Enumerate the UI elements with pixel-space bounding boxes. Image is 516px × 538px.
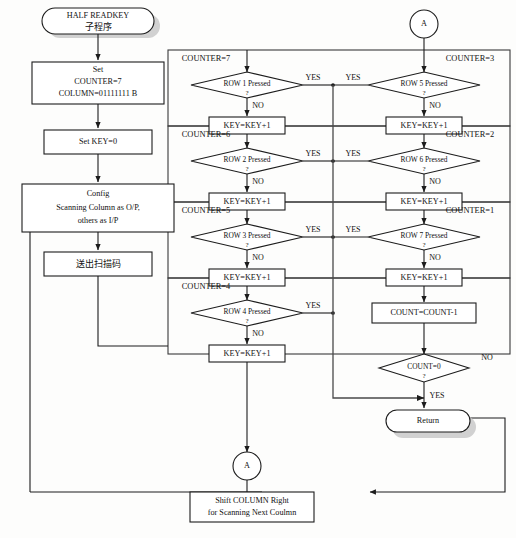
send-scan-code-box: 送出扫描码 [44, 252, 152, 276]
count-decrement-label: COUNT=COUNT-1 [390, 308, 457, 317]
no-label-count-zero: NO [481, 353, 493, 362]
counter-label-3: COUNTER=3 [446, 54, 494, 63]
decision-count-zero-label: COUNT=0 [407, 362, 441, 371]
yes-label-row5: YES [345, 73, 360, 82]
no-label-row4: NO [252, 329, 264, 338]
config-line2: Scanning Column as O/P, [56, 203, 140, 212]
config-box: Config Scanning Column as O/P, others as… [22, 184, 174, 232]
counter-label-2: COUNTER=2 [446, 130, 494, 139]
key-increment-label-1: KEY=KEY+1 [224, 121, 271, 130]
decision-row5-q: ? [422, 89, 425, 97]
decision-count-zero-q: ? [422, 372, 425, 380]
no-label-row2: NO [252, 177, 264, 186]
yes-label-row2: YES [305, 149, 320, 158]
connector-top-a: A [410, 10, 438, 38]
yes-label-row6: YES [345, 149, 360, 158]
start-terminator: HALF READKEY 子程序 [42, 8, 160, 38]
connector-bottom-a: A [233, 452, 261, 480]
set-init-line2: COUNTER=7 [74, 77, 121, 86]
no-label-row1: NO [252, 101, 264, 110]
decision-row5-label: ROW 5 Pressed [400, 79, 447, 88]
yes-label-row3: YES [305, 225, 320, 234]
decision-row3-q: ? [245, 241, 248, 249]
key-increment-box-4: KEY=KEY+1 [209, 345, 285, 362]
key-increment-label-4: KEY=KEY+1 [224, 349, 271, 358]
decision-row6-label: ROW 6 Pressed [400, 155, 447, 164]
decision-row3: ROW 3 Pressed ? [191, 224, 303, 250]
counter-label-4: COUNTER=4 [182, 282, 231, 291]
yes-label-row1: YES [305, 73, 320, 82]
connector-bottom-a-label: A [244, 461, 250, 470]
no-label-row3: NO [252, 253, 264, 262]
key-increment-label-7: KEY=KEY+1 [401, 273, 448, 282]
decision-row1-q: ? [245, 89, 248, 97]
key-increment-label-6: KEY=KEY+1 [401, 197, 448, 206]
key-increment-label-3: KEY=KEY+1 [224, 273, 271, 282]
decision-row7-q: ? [422, 241, 425, 249]
decision-row6-q: ? [422, 165, 425, 173]
counter-label-1: COUNTER=1 [446, 206, 494, 215]
config-line3: others as I/P [78, 216, 119, 225]
decision-row2: ROW 2 Pressed ? [191, 148, 303, 174]
decision-row1-label: ROW 1 Pressed [223, 79, 270, 88]
counter-label-7: COUNTER=7 [182, 54, 230, 63]
counter-label-6: COUNTER=6 [182, 130, 230, 139]
set-init-box: Set COUNTER=7 COLUMN=01111111 B [32, 62, 164, 104]
connector-top-a-label: A [421, 19, 427, 28]
key-increment-label-2: KEY=KEY+1 [224, 197, 271, 206]
no-label-row5: NO [429, 101, 441, 110]
set-key-label: Set KEY=0 [79, 137, 117, 146]
start-label-line2: 子程序 [85, 21, 112, 32]
shift-column-box: Shift COLUMN Right for Scanning Next Cou… [190, 492, 314, 522]
decision-row1: ROW 1 Pressed ? [191, 72, 303, 98]
config-line1: Config [87, 189, 110, 198]
decision-row4-label: ROW 4 Pressed [223, 307, 270, 316]
count-decrement-box: COUNT=COUNT-1 [372, 303, 476, 323]
shift-column-line1: Shift COLUMN Right [215, 496, 289, 505]
decision-row7: ROW 7 Pressed ? [368, 224, 480, 250]
decision-row4: ROW 4 Pressed ? [191, 300, 303, 326]
start-label-line1: HALF READKEY [67, 11, 130, 20]
yes-label-row4: YES [305, 301, 320, 310]
return-terminator: Return [386, 410, 476, 438]
decision-row2-q: ? [245, 165, 248, 173]
decision-row5: ROW 5 Pressed ? [368, 72, 480, 98]
no-label-row7: NO [429, 253, 441, 262]
counter-label-5: COUNTER=5 [182, 206, 230, 215]
decision-count-zero: COUNT=0 ? [379, 354, 469, 382]
decision-row3-label: ROW 3 Pressed [223, 231, 270, 240]
decision-row7-label: ROW 7 Pressed [400, 231, 447, 240]
flowchart-canvas: HALF READKEY 子程序 Set COUNTER=7 COLUMN=01… [0, 0, 516, 538]
decision-row2-label: ROW 2 Pressed [223, 155, 270, 164]
yes-label-count-zero: YES [429, 391, 444, 400]
shift-column-line2: for Scanning Next Coulmn [208, 508, 296, 517]
key-increment-box-7: KEY=KEY+1 [386, 269, 462, 286]
return-label: Return [417, 416, 439, 425]
decision-row6: ROW 6 Pressed ? [368, 148, 480, 174]
set-key-box: Set KEY=0 [44, 130, 152, 154]
set-init-line1: Set [93, 65, 104, 74]
send-scan-code-label: 送出扫描码 [76, 258, 121, 269]
decision-row4-q: ? [245, 317, 248, 325]
no-label-row6: NO [429, 177, 441, 186]
yes-label-row7: YES [345, 225, 360, 234]
key-increment-label-5: KEY=KEY+1 [401, 121, 448, 130]
set-init-line3: COLUMN=01111111 B [59, 89, 138, 98]
